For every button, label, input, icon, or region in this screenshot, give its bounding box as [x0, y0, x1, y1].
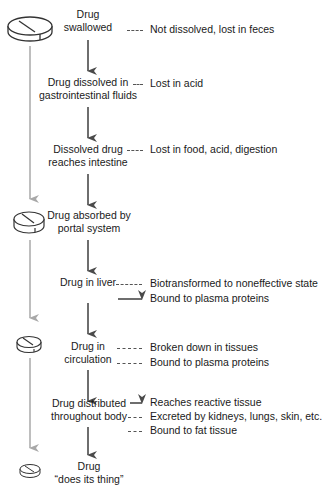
- step-does-its-thing: Drug “does its thing”: [44, 460, 134, 486]
- dash-connector: [133, 84, 143, 85]
- dash-connector: [116, 284, 142, 285]
- dash-connector: [127, 150, 143, 151]
- step-liver: Drug in liver: [48, 276, 128, 289]
- outcome-not-dissolved: Not dissolved, lost in feces: [150, 23, 274, 36]
- outcome-fat-tissue: Bound to fat tissue: [150, 424, 237, 437]
- outcome-excreted: Excreted by kidneys, lungs, skin, etc.: [150, 410, 322, 423]
- dash-connector: [127, 30, 143, 31]
- step-swallowed: Drug swallowed: [48, 8, 128, 34]
- pill-icon: [8, 17, 52, 41]
- step-portal: Drug absorbed by portal system: [44, 209, 134, 235]
- outcome-bound-plasma-liver: Bound to plasma proteins: [150, 292, 269, 305]
- pill-icon: [17, 337, 41, 353]
- outcome-lost-food: Lost in food, acid, digestion: [150, 143, 277, 156]
- outcome-biotransformed: Biotransformed to noneffective state: [150, 277, 318, 290]
- dash-connector: [117, 348, 142, 349]
- outcome-lost-acid: Lost in acid: [150, 77, 203, 90]
- outcome-broken-down: Broken down in tissues: [150, 341, 258, 354]
- dash-connector: [117, 363, 142, 364]
- outcome-reactive-tissue: Reaches reactive tissue: [150, 396, 261, 409]
- outcome-bound-plasma-circ: Bound to plasma proteins: [150, 356, 269, 369]
- step-dissolved: Drug dissolved in gastrointestinal fluid…: [28, 76, 148, 102]
- step-distributed: Drug distributed throughout body: [44, 397, 134, 423]
- dash-connector: [128, 431, 142, 432]
- pill-icon: [14, 212, 44, 233]
- step-intestine: Dissolved drug reaches intestine: [38, 143, 138, 169]
- pill-icon: [20, 465, 40, 478]
- main-arrows: [88, 40, 142, 455]
- dash-connector: [128, 417, 142, 418]
- step-circulation: Drug in circulation: [48, 340, 128, 366]
